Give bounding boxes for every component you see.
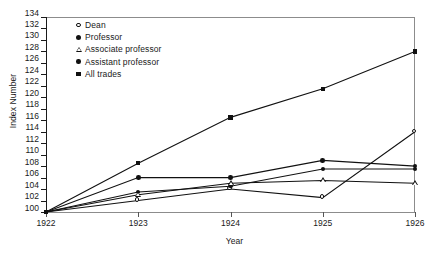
y-tick-label: 118 xyxy=(25,104,39,105)
data-point-marker xyxy=(135,192,141,197)
y-tick-label: 100 xyxy=(25,208,39,209)
data-point-marker xyxy=(412,180,418,185)
legend-label: Assistant professor xyxy=(85,56,159,68)
chart-figure: Index Number Year 1341321301281261241221… xyxy=(0,0,429,255)
legend-item: Dean xyxy=(72,19,162,31)
legend-marker-filled-circle-b-icon xyxy=(72,56,85,68)
y-axis-title: Index Number xyxy=(8,61,18,141)
legend-marker-triangle-icon xyxy=(72,43,85,55)
data-point-marker xyxy=(321,167,325,171)
legend-marker-square-icon xyxy=(72,68,85,80)
legend-item: Assistant professor xyxy=(72,56,162,68)
legend-item: Associate professor xyxy=(72,43,162,55)
chart-legend: DeanProfessorAssociate professorAssistan… xyxy=(72,19,162,80)
legend-label: Dean xyxy=(85,19,106,31)
y-tick-label: 110 xyxy=(25,150,39,151)
data-point-marker xyxy=(320,158,325,163)
x-tick-label: 1923 xyxy=(118,218,158,228)
y-tick-label: 112 xyxy=(25,139,39,140)
data-point-marker xyxy=(228,115,232,119)
y-tick-label: 130 xyxy=(25,35,39,36)
data-point-marker xyxy=(320,194,324,198)
data-point-marker xyxy=(412,129,416,133)
data-point-marker xyxy=(413,49,417,53)
legend-label: All trades xyxy=(85,68,121,80)
x-tick-label: 1924 xyxy=(211,218,251,228)
x-axis-title: Year xyxy=(40,236,429,246)
legend-marker-filled-circle-icon xyxy=(72,31,85,43)
y-tick-label: 108 xyxy=(25,162,39,163)
data-point-marker xyxy=(228,184,232,188)
legend-label: Professor xyxy=(85,31,122,43)
y-tick-label: 114 xyxy=(25,127,39,128)
y-tick-label: 120 xyxy=(25,93,39,94)
y-tick-label: 128 xyxy=(25,47,39,48)
data-point-marker xyxy=(320,177,326,182)
y-tick-label: 104 xyxy=(25,185,39,186)
legend-marker-open-circle-icon xyxy=(72,19,85,31)
data-point-marker xyxy=(228,180,234,185)
data-point-marker xyxy=(321,87,325,91)
legend-item: All trades xyxy=(72,68,162,80)
y-tick-label: 102 xyxy=(25,196,39,197)
y-tick-label: 132 xyxy=(25,24,39,25)
x-tick-label: 1926 xyxy=(395,218,429,228)
legend-label: Associate professor xyxy=(85,43,162,55)
y-tick-label: 126 xyxy=(25,58,39,59)
data-point-marker xyxy=(136,161,140,165)
x-tick-mark xyxy=(415,212,416,217)
y-tick-label: 106 xyxy=(25,173,39,174)
legend-item: Professor xyxy=(72,31,162,43)
y-tick-label: 134 xyxy=(25,13,39,14)
data-point-marker-origin xyxy=(44,210,48,214)
x-tick-label: 1925 xyxy=(303,218,343,228)
x-tick-label: 1922 xyxy=(26,218,66,228)
data-point-marker xyxy=(136,175,141,180)
y-tick-label: 116 xyxy=(25,116,39,117)
data-point-marker xyxy=(413,167,417,171)
y-tick-label: 124 xyxy=(25,70,39,71)
y-tick-label: 122 xyxy=(25,81,39,82)
